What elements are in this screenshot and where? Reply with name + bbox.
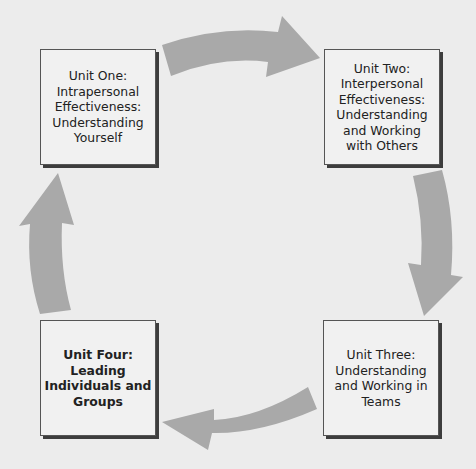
unit-one-box: Unit One: Intrapersonal Effectiveness: U… — [40, 49, 156, 165]
arrow-down-icon — [408, 170, 463, 316]
arrow-up-icon — [19, 173, 74, 314]
unit-four-label: Unit Four: Leading Individuals and Group… — [43, 347, 154, 409]
arrow-left-icon — [162, 387, 317, 450]
arrow-right-icon — [162, 16, 320, 77]
unit-four-box: Unit Four: Leading Individuals and Group… — [40, 320, 156, 436]
unit-two-box: Unit Two: Interpersonal Effectiveness: U… — [324, 49, 440, 165]
unit-three-label: Unit Three: Understanding and Working in… — [332, 347, 429, 409]
unit-one-label: Unit One: Intrapersonal Effectiveness: U… — [50, 68, 145, 146]
unit-two-label: Unit Two: Interpersonal Effectiveness: U… — [334, 61, 429, 154]
unit-three-box: Unit Three: Understanding and Working in… — [323, 320, 439, 436]
